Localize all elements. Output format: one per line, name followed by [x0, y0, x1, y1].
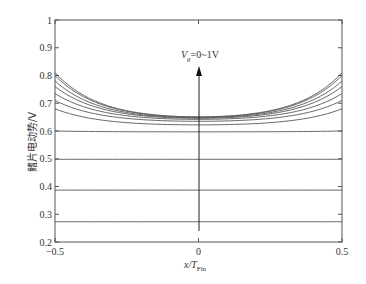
x-tick-label: −0.5	[46, 246, 64, 257]
annotation-label: Vg=0~1V	[181, 49, 220, 63]
x-axis-label: x/TFin	[183, 259, 207, 273]
y-tick-label: 0.7	[40, 98, 53, 109]
y-tick-label: 0.6	[40, 126, 53, 137]
annotation-arrow	[196, 66, 202, 231]
chart: 0.20.30.40.50.60.70.80.91 −0.500.5 Vg=0~…	[0, 0, 366, 284]
x-tick-label: 0	[196, 246, 201, 257]
x-tick-label: 0.5	[336, 246, 349, 257]
y-tick-label: 0.5	[40, 153, 53, 164]
y-tick-label: 1	[47, 15, 52, 26]
arrow-up-icon	[196, 66, 202, 76]
y-axis-label: 鳍片电动势/V	[26, 112, 38, 172]
y-tick-label: 0.8	[40, 70, 53, 81]
y-tick-label: 0.4	[40, 181, 53, 192]
y-tick-label: 0.3	[40, 209, 53, 220]
y-tick-label: 0.9	[40, 42, 53, 53]
